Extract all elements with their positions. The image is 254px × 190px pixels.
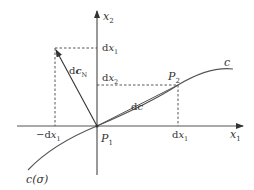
tangent-vector-label: dc (131, 101, 143, 112)
normal-vector-dcN (56, 50, 97, 126)
x-tick-dx1: dx1 (172, 129, 188, 143)
x2-axis-label: x2 (103, 10, 114, 25)
point-p1 (95, 124, 98, 127)
y-tick-dx2: dx2 (102, 72, 118, 86)
curve-param-label: c(σ) (26, 173, 48, 186)
point-p1-label: P1 (100, 132, 113, 147)
dashed-guides (55, 48, 178, 126)
point-p2-label: P2 (167, 70, 180, 85)
curve-c-label: c (224, 56, 230, 69)
y-tick-dx1: dx1 (102, 42, 118, 56)
curve-c (28, 69, 233, 170)
diagram-canvas: x2 dx1 dx2 dcN dc P2 c P1 −dx1 dx1 x1 c(… (0, 0, 254, 190)
x-tick-neg-dx1: −dx1 (36, 129, 61, 143)
normal-vector-label: dcN (69, 65, 88, 79)
x1-axis-label: x1 (230, 128, 241, 143)
